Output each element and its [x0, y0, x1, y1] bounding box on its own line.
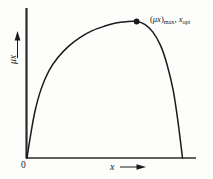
- plot-canvas: [0, 0, 213, 179]
- peak-annotation-subscript: max: [164, 18, 175, 25]
- peak-annotation-second-subscript: opt: [182, 18, 190, 25]
- x-axis-direction-arrow: [120, 164, 146, 170]
- growth-rate-curve: [27, 21, 183, 158]
- peak-marker-dot: [134, 19, 140, 25]
- growth-rate-plot-figure: μx x 0 (μx)max, xopt: [0, 0, 213, 179]
- y-axis-label: μx: [9, 55, 19, 64]
- x-axis-label: x: [110, 162, 114, 172]
- peak-annotation: (μx)max, xopt: [150, 15, 190, 24]
- origin-label: 0: [21, 160, 26, 170]
- peak-annotation-symbol: μx: [153, 14, 161, 24]
- y-axis-direction-arrow: [15, 31, 21, 58]
